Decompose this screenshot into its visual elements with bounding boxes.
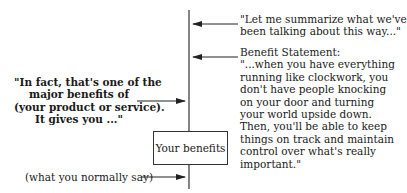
left-quote-line: (your product or service). — [14, 101, 144, 113]
benefit-statement-heading: Benefit Statement: — [240, 46, 395, 58]
summary-quote-line: "Let me summarize what we've — [240, 13, 407, 25]
benefit-line: don't have people knocking — [240, 83, 395, 95]
box-label: Your benefits — [156, 142, 226, 154]
benefit-statement: Benefit Statement: "...when you have eve… — [240, 46, 395, 170]
left-quote-line: It gives you ..." — [14, 113, 144, 125]
left-quote-line: "In fact, that's one of the — [14, 76, 144, 88]
left-quote: "In fact, that's one of the major benefi… — [14, 76, 144, 126]
benefit-line: Then, you'll be able to keep — [240, 120, 395, 132]
left-quote-line: major benefits of — [14, 88, 144, 100]
benefit-line: running like clockwork, you — [240, 71, 395, 83]
benefit-line: "...when you have everything — [240, 58, 395, 70]
benefit-line: on your door and turning — [240, 96, 395, 108]
summary-quote: "Let me summarize what we've been talkin… — [240, 13, 407, 38]
benefit-line: your world upside down. — [240, 108, 395, 120]
benefit-line: important." — [240, 158, 395, 170]
your-benefits-box: Your benefits — [153, 131, 228, 165]
summary-quote-line: been talking about this way..." — [240, 25, 407, 37]
benefit-line: control over what's really — [240, 145, 395, 157]
benefit-line: things on track and maintain — [240, 133, 395, 145]
bottom-label: (what you normally say) — [25, 171, 153, 183]
